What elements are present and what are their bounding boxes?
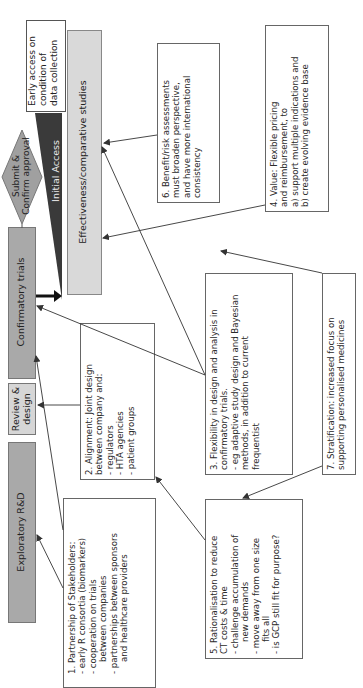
arrow-note1-exploratory xyxy=(37,535,63,588)
arrow-note7-note5 xyxy=(243,466,322,498)
arrow-note1-confirmatory xyxy=(36,356,63,530)
arrow-note3-effectiveness xyxy=(102,147,205,375)
arrow-note7-up xyxy=(221,251,322,273)
arrow-note6-effectiveness xyxy=(104,135,157,143)
arrow-note5-note2 xyxy=(156,477,205,540)
arrow-note3-confirmatory xyxy=(37,306,205,375)
arrow-note4-effectiveness xyxy=(103,205,265,238)
